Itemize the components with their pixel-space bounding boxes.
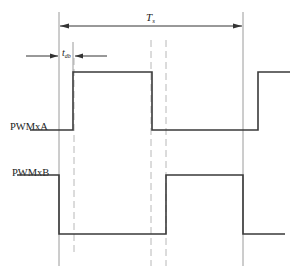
period-arrow bbox=[60, 24, 242, 29]
pwm-deadband-timing-diagram: Ts tdb PWMxA PWMxB bbox=[0, 0, 299, 276]
signal-label-pwmxb: PWMxB bbox=[12, 167, 49, 178]
arrowhead-right-icon bbox=[50, 54, 58, 59]
signal-waveform-pwmxa bbox=[30, 72, 290, 130]
deadband-label: tdb bbox=[62, 47, 71, 59]
period-label: Ts bbox=[146, 11, 155, 25]
arrowhead-right-icon bbox=[233, 24, 242, 29]
arrowhead-left-icon bbox=[60, 24, 69, 29]
arrowhead-left-icon bbox=[75, 54, 83, 59]
